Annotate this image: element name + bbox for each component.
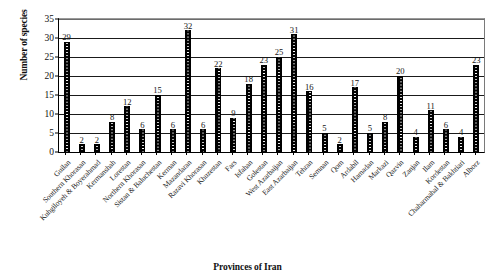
bar-slot: 16 (302, 19, 317, 152)
y-axis-title: Number of species (19, 0, 29, 115)
x-axis-labels: GuilanSouthern KhorasanKuhgiloyeh & Boye… (58, 156, 483, 252)
x-tick-mark (460, 151, 461, 155)
x-tick-mark (262, 151, 263, 155)
x-tick-mark (338, 151, 339, 155)
bar: 16 (306, 91, 312, 152)
bar-value-label: 6 (201, 121, 205, 130)
bar: 8 (382, 122, 388, 152)
x-tick-mark (308, 151, 309, 155)
bar-slot: 22 (211, 19, 226, 152)
bar-value-label: 22 (214, 60, 223, 69)
x-tick-mark (247, 151, 248, 155)
bar: 31 (291, 34, 297, 152)
bar: 25 (276, 57, 282, 152)
bar: 11 (428, 110, 434, 152)
bar-value-label: 9 (231, 109, 235, 118)
bar-slot: 2 (89, 19, 104, 152)
bar-slot: 17 (347, 19, 362, 152)
bar: 6 (443, 129, 449, 152)
bar-value-label: 8 (383, 113, 387, 122)
bar: 4 (458, 137, 464, 152)
y-tick-label-20: 20 (45, 71, 55, 81)
bar-slot: 8 (378, 19, 393, 152)
bar-value-label: 17 (351, 79, 360, 88)
x-tick-mark (444, 151, 445, 155)
bar-value-label: 12 (123, 98, 132, 107)
bar-slot: 6 (165, 19, 180, 152)
bar: 22 (215, 68, 221, 152)
plot-area: 05101520253035 2922812615632622918232531… (58, 18, 485, 153)
x-tick-mark (141, 151, 142, 155)
bar-slot: 8 (105, 19, 120, 152)
bar-slot: 32 (180, 19, 195, 152)
bar-slot: 23 (256, 19, 271, 152)
bar: 8 (109, 122, 115, 152)
bar: 9 (230, 118, 236, 152)
bar-slot: 12 (120, 19, 135, 152)
bar-value-label: 6 (444, 121, 448, 130)
bar-value-label: 16 (305, 83, 314, 92)
bar-value-label: 2 (80, 136, 84, 145)
x-tick-mark (126, 151, 127, 155)
bar-value-label: 11 (427, 102, 435, 111)
bar: 20 (397, 76, 403, 152)
x-tick-mark (95, 151, 96, 155)
x-tick-mark (232, 151, 233, 155)
x-tick-mark (475, 151, 476, 155)
bar-value-label: 23 (260, 56, 269, 65)
x-tick-mark (293, 151, 294, 155)
bar-slot: 15 (150, 19, 165, 152)
y-tick-label-0: 0 (49, 147, 54, 157)
x-tick-mark (65, 151, 66, 155)
bar-value-label: 8 (110, 113, 114, 122)
x-tick-mark (217, 151, 218, 155)
y-tick-label-10: 10 (45, 109, 55, 119)
x-label-slot: Semnan (316, 156, 331, 252)
x-tick-mark (414, 151, 415, 155)
x-tick-mark (369, 151, 370, 155)
bar-slot: 31 (287, 19, 302, 152)
bar-value-label: 29 (62, 33, 71, 42)
x-tick-mark (186, 151, 187, 155)
bar-value-label: 25 (275, 48, 284, 57)
bar-slot: 6 (135, 19, 150, 152)
bar-value-label: 15 (153, 86, 162, 95)
bar-series: 2922812615632622918232531165217582041164… (59, 19, 484, 152)
bar-value-label: 4 (459, 128, 463, 137)
bar: 18 (246, 84, 252, 152)
x-tick-mark (171, 151, 172, 155)
bar: 23 (261, 65, 267, 152)
bar-value-label: 2 (95, 136, 99, 145)
bar-slot: 2 (332, 19, 347, 152)
y-tick-label-25: 25 (45, 52, 55, 62)
y-tick-label-30: 30 (45, 33, 55, 43)
bar-value-label: 5 (368, 124, 372, 133)
bar-slot: 6 (438, 19, 453, 152)
y-tick-label-5: 5 (49, 128, 54, 138)
bar-slot: 6 (196, 19, 211, 152)
bar: 29 (64, 42, 70, 152)
x-label-slot: Alborz (468, 156, 483, 252)
bar-slot: 5 (317, 19, 332, 152)
bar-value-label: 2 (338, 136, 342, 145)
y-tick-label-35: 35 (45, 14, 55, 24)
bar-slot: 11 (423, 19, 438, 152)
x-label-slot: Khuzestan (210, 156, 225, 252)
y-tick-label-15: 15 (45, 90, 55, 100)
bar: 5 (367, 133, 373, 152)
bar: 32 (185, 30, 191, 152)
bar-slot: 2 (74, 19, 89, 152)
bar-value-label: 4 (413, 128, 417, 137)
bar-value-label: 5 (322, 124, 326, 133)
x-tick-mark (353, 151, 354, 155)
bar: 5 (322, 133, 328, 152)
bar-value-label: 20 (396, 67, 405, 76)
bar-slot: 4 (408, 19, 423, 152)
x-tick-mark (202, 151, 203, 155)
bar-value-label: 6 (171, 121, 175, 130)
bar-slot: 23 (469, 19, 484, 152)
x-axis-title: Provinces of Iran (0, 262, 495, 272)
bar: 15 (155, 95, 161, 152)
bar-slot: 29 (59, 19, 74, 152)
bar-slot: 9 (226, 19, 241, 152)
